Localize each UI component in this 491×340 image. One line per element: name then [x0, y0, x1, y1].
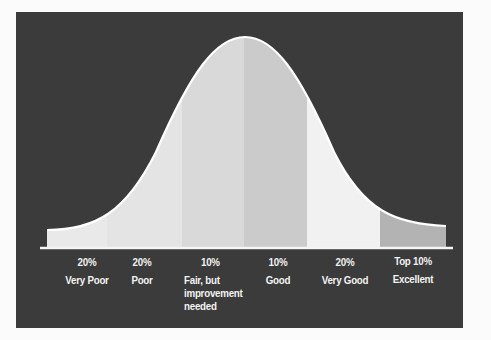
category-label: Poor [125, 274, 159, 287]
percent-label: 10% [261, 256, 295, 269]
label-very-good: 20% Very Good [315, 256, 375, 287]
chart-panel: 20% Very Poor 20% Poor 10% Fair, but imp… [16, 12, 463, 328]
category-label: Very Poor [57, 274, 117, 287]
category-label: Excellent [383, 273, 443, 286]
band-poor [107, 12, 182, 248]
band-fair [182, 12, 244, 248]
band-very-good [307, 12, 380, 248]
band-good [244, 12, 307, 248]
category-label: Fair, but improvement needed [184, 274, 250, 313]
label-poor: 20% Poor [125, 256, 159, 287]
band-excellent [380, 12, 446, 248]
label-good: 10% Good [261, 256, 295, 287]
category-label: Good [261, 274, 295, 287]
band-very-poor [47, 12, 107, 248]
percent-label: 10% [184, 256, 250, 269]
label-very-poor: 20% Very Poor [57, 256, 117, 287]
percent-label: 20% [315, 256, 375, 269]
percent-label: Top 10% [383, 255, 443, 268]
category-label: Very Good [315, 274, 375, 287]
percent-label: 20% [125, 256, 159, 269]
label-fair: 10% Fair, but improvement needed [184, 256, 250, 313]
percent-label: 20% [57, 256, 117, 269]
label-excellent: Top 10% Excellent [383, 255, 443, 286]
